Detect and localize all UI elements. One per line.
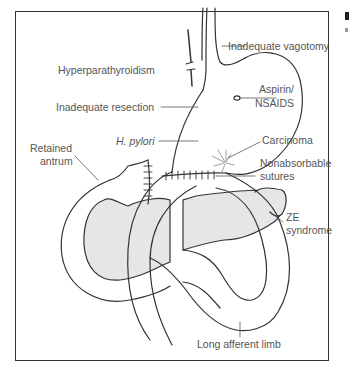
label-nonabsorbable-sutures: Nonabsorbable sutures xyxy=(260,157,331,183)
page-edge-mark xyxy=(345,12,349,20)
label-retained-antrum: Retained antrum xyxy=(30,142,72,168)
label-hyperparathyroidism: Hyperparathyroidism xyxy=(58,64,155,77)
label-long-afferent-limb: Long afferent limb xyxy=(197,338,281,351)
label-inadequate-vagotomy: Inadequate vagotomy xyxy=(228,40,329,53)
label-h-pylori: H. pylori xyxy=(116,135,155,148)
page-edge-mark-small xyxy=(345,28,348,32)
label-carcinoma: Carcinoma xyxy=(262,134,313,147)
stomach-surgery-illustration xyxy=(0,0,356,374)
pancreas xyxy=(84,198,170,280)
label-inadequate-resection: Inadequate resection xyxy=(56,101,154,114)
label-ze-syndrome: ZE syndrome xyxy=(286,211,332,237)
